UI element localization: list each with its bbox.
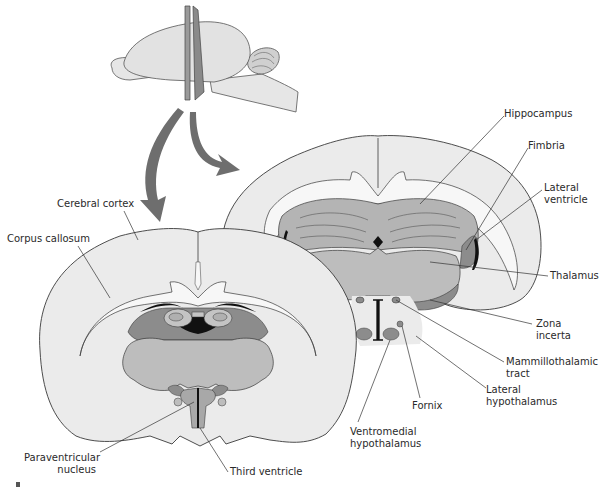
label-paraventricular-nucleus-line2: nucleus: [24, 464, 96, 476]
label-lateral-hypothalamus-line2: hypothalamus: [486, 396, 557, 408]
label-ventromedial-line1: Ventromedial: [350, 426, 416, 438]
label-third-ventricle: Third ventricle: [230, 466, 302, 478]
label-cerebral-cortex: Cerebral cortex: [57, 198, 134, 210]
mammillothalamic-tract-left: [356, 297, 364, 303]
anterior-hippocampus-left-inner: [169, 313, 183, 321]
anterior-fornix-left: [174, 398, 182, 406]
whole-brain-lateral-view: [111, 6, 298, 112]
section-arrows: [140, 108, 240, 222]
ventromedial-hypothalamus-left: [356, 328, 372, 340]
label-ventromedial-line2: hypothalamus: [350, 438, 421, 450]
anterior-callosum-midline: [195, 262, 201, 290]
label-thalamus: Thalamus: [550, 270, 599, 282]
label-mammillothalamic-line2: tract: [506, 368, 530, 380]
label-mammillothalamic-line1: Mammillothalamic: [506, 356, 598, 368]
figure-marker: [16, 482, 20, 487]
ventromedial-hypothalamus: [383, 328, 399, 340]
label-paraventricular-nucleus-line1: Paraventricular: [24, 452, 96, 464]
label-fimbria: Fimbria: [528, 140, 565, 152]
label-zona-incerta-line1: Zona: [536, 318, 561, 330]
arrow-to-posterior-section: [190, 112, 240, 176]
anterior-fornix-band: [192, 312, 204, 317]
arrow-to-anterior-section: [140, 108, 184, 222]
label-hippocampus: Hippocampus: [504, 108, 572, 120]
label-lateral-ventricle-line2: ventricle: [544, 194, 588, 206]
anterior-third-ventricle: [197, 388, 199, 428]
cerebellum: [248, 48, 280, 74]
label-lateral-ventricle-line1: Lateral: [544, 182, 579, 194]
anterior-fornix-right: [218, 398, 226, 406]
anterior-hippocampus-right-inner: [213, 313, 227, 321]
label-lateral-hypothalamus-line1: Lateral: [486, 384, 521, 396]
leader-ventromedial: [358, 340, 390, 422]
section-slab-1: [185, 6, 190, 100]
label-fornix: Fornix: [412, 400, 442, 412]
label-corpus-callosum: Corpus callosum: [7, 233, 90, 245]
label-zona-incerta-line2: incerta: [536, 330, 571, 342]
anterior-thalamus: [123, 338, 274, 390]
leader-lateral-hypothalamus: [416, 336, 486, 388]
